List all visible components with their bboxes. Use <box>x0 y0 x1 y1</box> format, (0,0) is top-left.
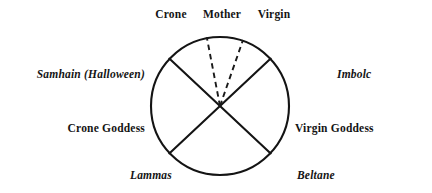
label-imbolc: Imbolc <box>337 68 371 81</box>
label-virgin: Virgin <box>258 8 291 21</box>
label-samhain: Samhain (Halloween) <box>37 68 145 81</box>
label-mother: Mother <box>203 8 241 21</box>
wheel-diagram-svg <box>0 0 432 193</box>
label-lammas: Lammas <box>130 169 172 182</box>
label-crone: Crone <box>155 8 186 21</box>
label-crone-goddess: Crone Goddess <box>68 122 145 135</box>
label-virgin-goddess: Virgin Goddess <box>295 122 374 135</box>
wheel-of-the-year-diagram: Crone Mother Virgin Samhain (Halloween) … <box>0 0 432 193</box>
label-beltane: Beltane <box>297 169 335 182</box>
